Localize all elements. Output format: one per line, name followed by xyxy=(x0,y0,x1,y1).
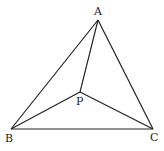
label-b: B xyxy=(5,132,13,145)
label-a: A xyxy=(93,5,103,18)
label-c: C xyxy=(150,131,158,144)
segment-pc xyxy=(80,92,153,129)
segment-ca xyxy=(98,20,153,129)
triangle-diagram: A B C P xyxy=(0,0,164,151)
segment-pb xyxy=(11,92,80,129)
label-p: P xyxy=(76,95,84,108)
